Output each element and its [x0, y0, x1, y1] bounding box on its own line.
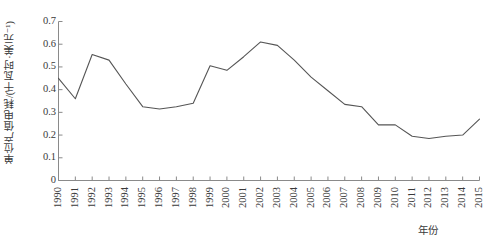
- data-series-line: [59, 42, 480, 139]
- axis-lines: [59, 22, 480, 181]
- chart-container: 单位产值电耗/(千瓦时·美元⁻¹) 00.10.20.30.40.50.60.7…: [0, 0, 488, 237]
- axis-ticks: [59, 22, 480, 181]
- plot-area: [0, 0, 488, 237]
